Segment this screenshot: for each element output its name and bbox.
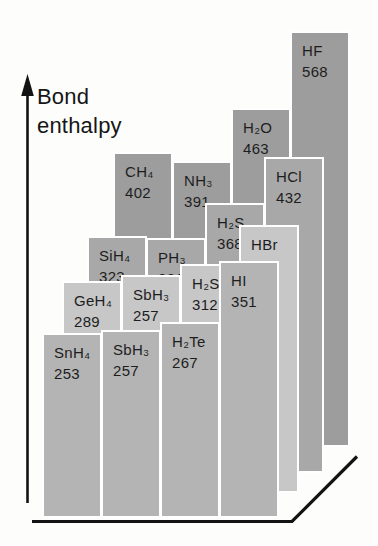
floor-baseline bbox=[32, 457, 357, 522]
axes-overlay bbox=[0, 0, 378, 546]
bond-enthalpy-figure: Bond enthalpy CH₄402NH₃391H₂O463HF568SiH… bbox=[0, 0, 378, 546]
y-axis-arrowhead-icon bbox=[21, 74, 34, 96]
